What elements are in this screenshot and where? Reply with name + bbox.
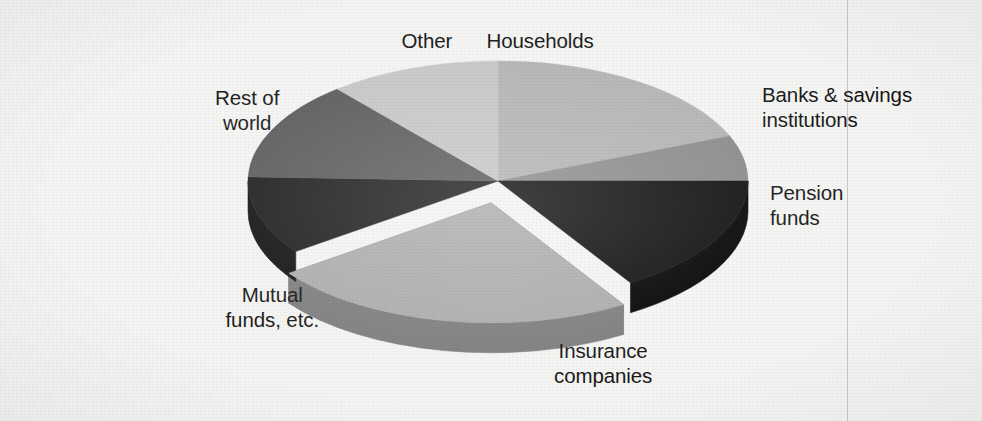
pie-label-line: Households xyxy=(487,28,594,53)
pie-label-line: Other xyxy=(402,28,453,53)
pie-label-line: institutions xyxy=(762,107,912,132)
pie-label-households: Households xyxy=(487,28,594,53)
pie-label-line: funds xyxy=(770,205,843,230)
pie-label-mutual-funds-etc: Mutualfunds, etc. xyxy=(226,282,319,332)
pie-label-line: world xyxy=(215,110,279,135)
pie-label-line: Banks & savings xyxy=(762,82,912,107)
pie-label-line: companies xyxy=(554,363,652,388)
pie-label-rest-of-world: Rest ofworld xyxy=(215,85,279,135)
pie-label-line: Insurance xyxy=(554,338,652,363)
pie-label-line: Pension xyxy=(770,180,843,205)
pie-label-line: funds, etc. xyxy=(226,307,319,332)
pie-chart-figure: HouseholdsBanks & savingsinstitutionsPen… xyxy=(0,0,982,421)
pie-label-banks-savings-institutions: Banks & savingsinstitutions xyxy=(762,82,912,132)
pie-label-line: Rest of xyxy=(215,85,279,110)
pie-label-other: Other xyxy=(402,28,453,53)
pie-label-line: Mutual xyxy=(226,282,319,307)
pie-label-pension-funds: Pensionfunds xyxy=(770,180,843,230)
scan-line xyxy=(847,0,848,421)
pie-label-insurance-companies: Insurancecompanies xyxy=(554,338,652,388)
